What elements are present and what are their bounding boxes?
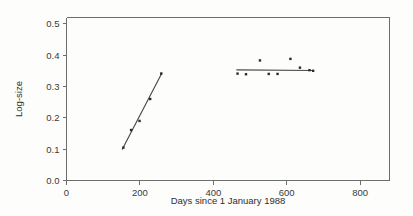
data-point-marker — [149, 98, 151, 100]
data-point-marker — [245, 73, 247, 75]
data-point-marker — [138, 120, 140, 122]
y-axis-title: Log-size — [13, 81, 24, 117]
y-tick-label: 0.5 — [46, 18, 59, 29]
data-point-marker — [130, 129, 132, 131]
x-tick-label: 200 — [132, 187, 148, 198]
y-tick-label: 0.1 — [46, 144, 59, 155]
chart-background — [0, 0, 413, 216]
data-point-marker — [259, 59, 261, 61]
data-point-marker — [299, 66, 301, 68]
y-tick-label: 0.3 — [46, 81, 59, 92]
x-tick-label: 800 — [352, 187, 368, 198]
y-tick-label: 0.0 — [46, 175, 59, 186]
data-point-marker — [268, 73, 270, 75]
x-tick-label: 0 — [64, 187, 69, 198]
y-tick-label: 0.2 — [46, 112, 59, 123]
regression-fit-line — [237, 70, 313, 71]
y-tick-label: 0.4 — [46, 50, 59, 61]
x-axis-title: Days since 1 January 1988 — [171, 195, 286, 206]
data-point-marker — [236, 72, 238, 74]
data-point-marker — [289, 58, 291, 60]
scatter-plot-svg: 0.00.10.20.30.40.5 0200400600800 Days si… — [0, 0, 413, 216]
data-point-marker — [312, 70, 314, 72]
data-point-marker — [160, 72, 162, 74]
chart-figure: 0.00.10.20.30.40.5 0200400600800 Days si… — [0, 0, 413, 216]
data-point-marker — [122, 146, 124, 148]
data-point-marker — [276, 73, 278, 75]
data-point-marker — [308, 69, 310, 71]
